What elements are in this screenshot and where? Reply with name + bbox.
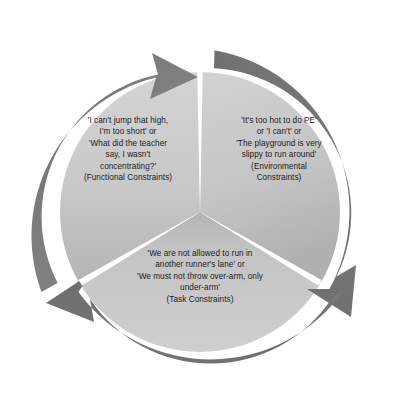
segment-environmental-label: 'It's too hot to do PE' or 'I can't' or … xyxy=(205,115,353,183)
constraints-cycle-diagram: 'I can't jump that high, I'm too short' … xyxy=(0,0,400,393)
segment-functional-label: 'I can't jump that high, I'm too short' … xyxy=(52,115,204,183)
segment-task-label: 'We are not allowed to run in another ru… xyxy=(99,248,301,305)
cycle-graphic xyxy=(0,0,400,393)
